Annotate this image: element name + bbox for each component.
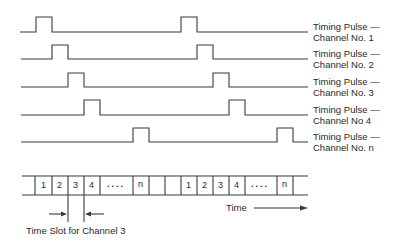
slot-ellipsis: .... — [251, 179, 269, 190]
slot-ellipsis: .... — [107, 179, 125, 190]
label-line1: Timing Pulse — — [313, 104, 380, 115]
slot-2: 2 — [57, 180, 62, 191]
channel-2-label: Timing Pulse — Channel No. 2 — [313, 48, 380, 70]
waveform-channel-3 — [21, 73, 308, 87]
arrow-right-head-icon — [61, 212, 67, 217]
channel-3-label: Timing Pulse — Channel No. 3 — [313, 76, 380, 98]
slot-4: 4 — [89, 180, 94, 191]
label-line1: Timing Pulse — — [313, 21, 380, 32]
label-line1: Timing Pulse — — [313, 76, 380, 87]
label-line1: Timing Pulse — — [313, 48, 380, 59]
label-line2: Channel No. 2 — [313, 59, 380, 70]
slot-3: 3 — [73, 180, 78, 191]
slot-n: n — [138, 179, 143, 190]
slot-1: 1 — [186, 180, 191, 191]
waveform-channel-1 — [20, 17, 308, 32]
waveform-channel-n — [21, 128, 308, 142]
label-line2: Channel No 4 — [313, 115, 380, 126]
label-line2: Channel No. 3 — [313, 87, 380, 98]
slot-4: 4 — [234, 180, 239, 191]
time-axis-label: Time — [226, 202, 247, 213]
channel-1-label: Timing Pulse — Channel No. 1 — [313, 21, 380, 43]
waveform-channel-4 — [21, 100, 308, 115]
slot-1: 1 — [41, 180, 46, 191]
time-arrow-head-icon — [300, 206, 308, 211]
label-line2: Channel No. n — [313, 142, 380, 153]
channel-n-label: Timing Pulse — Channel No. n — [313, 131, 380, 153]
arrow-left-head-icon — [85, 212, 91, 217]
slot-2: 2 — [202, 180, 207, 191]
slot-n: n — [282, 179, 287, 190]
slot-annotation: Time Slot for Channel 3 — [26, 225, 125, 236]
slot-3: 3 — [218, 180, 223, 191]
channel-4-label: Timing Pulse — Channel No 4 — [313, 104, 380, 126]
label-line1: Timing Pulse — — [313, 131, 380, 142]
waveform-channel-2 — [21, 45, 308, 59]
label-line2: Channel No. 1 — [313, 32, 380, 43]
